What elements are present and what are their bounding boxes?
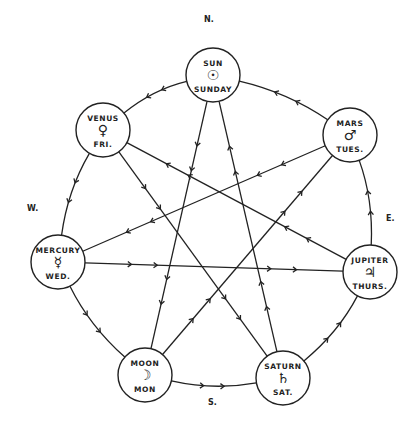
sun-day-label: SUNDAY bbox=[194, 85, 232, 94]
jupiter-symbol-icon: ♃ bbox=[364, 264, 377, 280]
nodes-layer: SUN☉SUNDAYVENUS♀FRI.MARS♂TUES.MERCURY☿WE… bbox=[31, 48, 397, 405]
node-jupiter: JUPITER♃THURS. bbox=[343, 245, 397, 299]
moon-symbol-icon: ☽ bbox=[139, 367, 152, 383]
direction-south-label: S. bbox=[208, 398, 217, 407]
outer-edge-jupiter-to-mars bbox=[359, 160, 373, 245]
outer-edge-mars-to-sun bbox=[239, 81, 327, 120]
star-edge-mercury-to-jupiter bbox=[85, 262, 343, 273]
saturn-day-label: SAT. bbox=[273, 388, 293, 397]
outer-edge-saturn-to-jupiter bbox=[304, 296, 358, 361]
star-edge-mars-to-mercury bbox=[83, 146, 325, 251]
direction-west-label: W. bbox=[27, 204, 38, 213]
moon-day-label: MON bbox=[134, 385, 156, 394]
saturn-symbol-icon: ♄ bbox=[277, 370, 290, 386]
mars-day-label: TUES. bbox=[336, 145, 364, 154]
mercury-day-label: WED. bbox=[46, 272, 71, 281]
mars-symbol-icon: ♂ bbox=[344, 127, 357, 143]
node-sun: SUN☉SUNDAY bbox=[186, 48, 240, 102]
outer-edge-moon-to-saturn bbox=[171, 381, 256, 389]
star-edge-venus-to-saturn bbox=[119, 152, 267, 356]
planetary-heptagram-diagram: N. W. E. S. SUN☉SUNDAYVENUS♀FRI.MARS♂TUE… bbox=[0, 0, 419, 426]
node-moon: MOON☽MON bbox=[118, 348, 172, 402]
jupiter-day-label: THURS. bbox=[352, 282, 387, 291]
venus-symbol-icon: ♀ bbox=[98, 122, 108, 138]
mercury-symbol-icon: ☿ bbox=[54, 254, 63, 270]
outer-edge-mercury-to-moon bbox=[70, 286, 125, 357]
star-edge-saturn-to-sun bbox=[219, 101, 277, 351]
node-mercury: MERCURY☿WED. bbox=[31, 235, 85, 289]
node-venus: VENUS♀FRI. bbox=[76, 103, 130, 157]
direction-north-label: N. bbox=[204, 15, 214, 24]
node-saturn: SATURN♄SAT. bbox=[256, 351, 310, 405]
node-mars: MARS♂TUES. bbox=[323, 108, 377, 162]
outer-edge-venus-to-mercury bbox=[62, 153, 90, 235]
venus-day-label: FRI. bbox=[94, 140, 113, 149]
direction-east-label: E. bbox=[386, 214, 395, 223]
outer-edge-sun-to-venus bbox=[124, 81, 187, 113]
sun-symbol-icon: ☉ bbox=[207, 67, 220, 83]
star-edge-jupiter-to-venus bbox=[127, 143, 346, 260]
